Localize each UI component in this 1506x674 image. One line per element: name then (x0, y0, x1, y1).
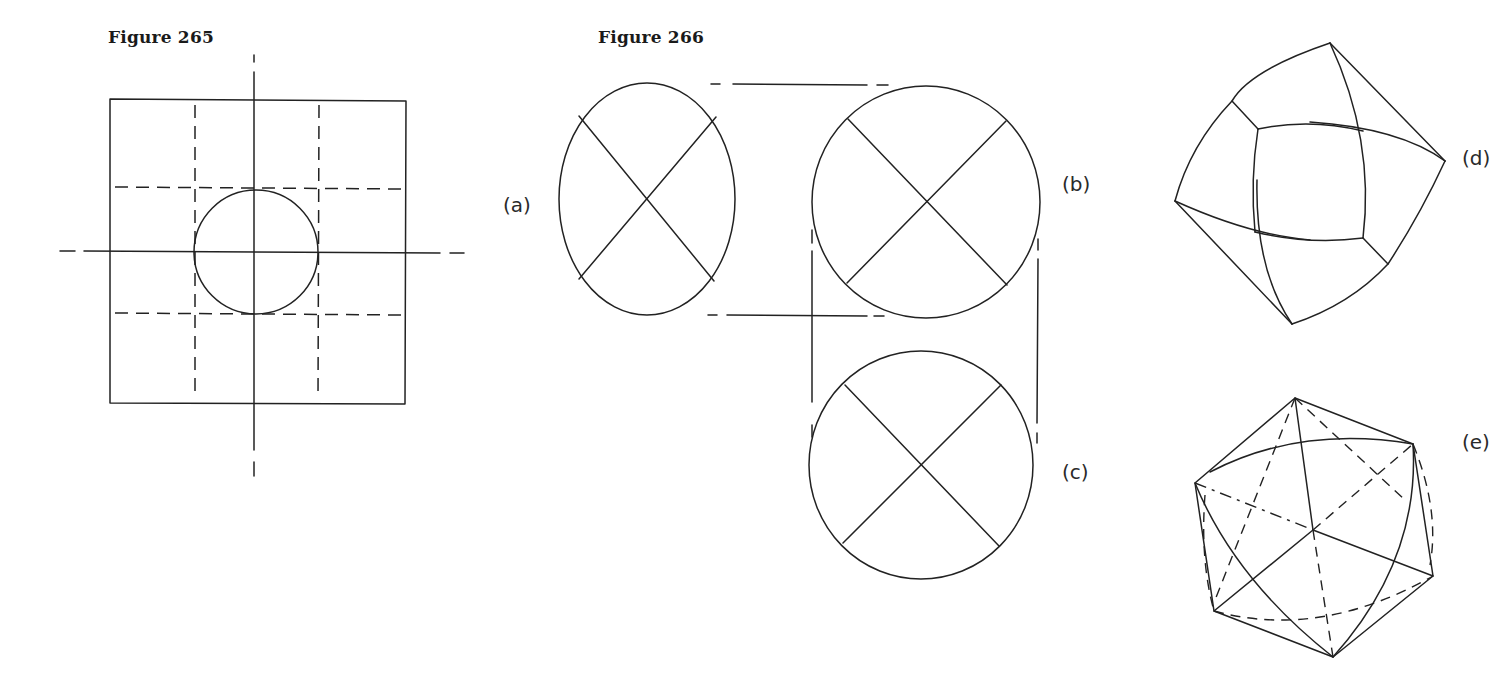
view-e-polyhedron (1195, 398, 1433, 657)
view-d-curved-solid (1175, 43, 1445, 324)
figure-266-orthographic (559, 83, 1040, 579)
technical-drawing (0, 0, 1506, 674)
hidden-line-top (115, 187, 402, 189)
figure-265-drawing (60, 55, 464, 476)
view-a-circle (559, 83, 735, 315)
diagram-page: Figure 265 Figure 266 (a) (b) (c) (d) (e… (0, 0, 1506, 674)
view-b-circle (812, 86, 1040, 318)
view-c-circle (809, 351, 1033, 579)
